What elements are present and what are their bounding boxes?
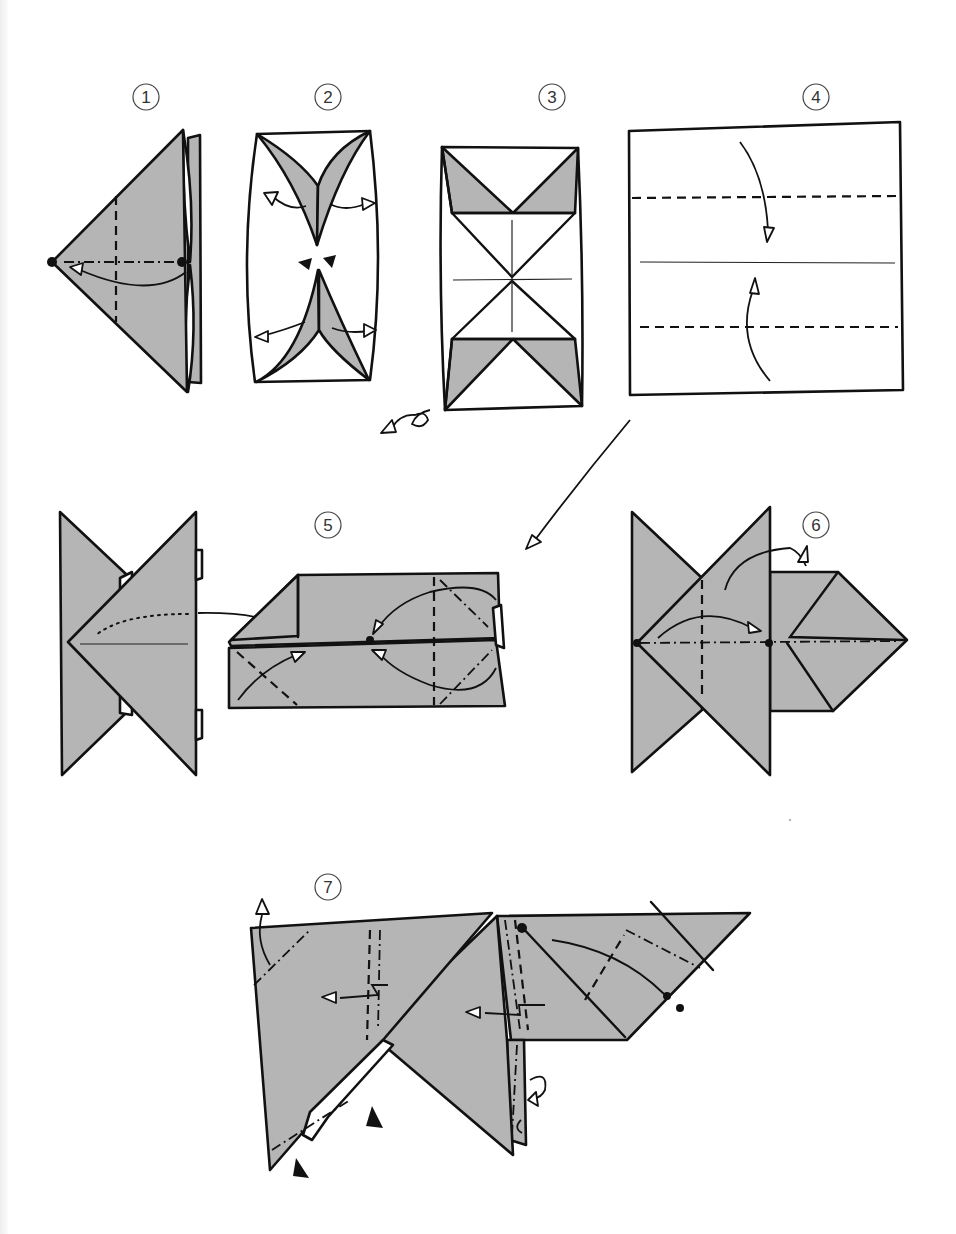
step-number-label: 7 — [323, 878, 332, 897]
step-number-label: 4 — [811, 88, 820, 107]
stray-mark — [789, 819, 791, 821]
step-number-label: 6 — [811, 516, 820, 535]
step-number-5: 5 — [315, 512, 341, 538]
step-4: 4 — [629, 84, 903, 395]
step-number-7: 7 — [315, 874, 341, 900]
step-5: 5 — [60, 512, 505, 775]
step-number-4: 4 — [803, 84, 829, 110]
step-number-2: 2 — [315, 84, 341, 110]
step-number-label: 2 — [323, 88, 332, 107]
step-3: 3 — [441, 84, 583, 410]
step-7: 7 — [251, 874, 750, 1178]
step-number-6: 6 — [803, 512, 829, 538]
fold-arrow-icon — [256, 899, 269, 914]
origami-diagram: 1 2 — [0, 0, 956, 1234]
push-arrow-icon — [293, 1158, 309, 1178]
step-number-3: 3 — [539, 84, 565, 110]
step-number-label: 1 — [141, 88, 150, 107]
step-1: 1 — [47, 84, 201, 392]
step-2: 2 — [247, 84, 378, 382]
step-number-1: 1 — [133, 84, 159, 110]
fold-arrow-icon — [528, 1092, 538, 1106]
sequence-arrow-icon — [526, 420, 630, 549]
step-number-label: 5 — [323, 516, 332, 535]
push-arrow-icon — [366, 1106, 383, 1128]
step-number-label: 3 — [547, 88, 556, 107]
turn-over-arrow-icon — [381, 410, 430, 433]
step-6: 6 — [632, 507, 907, 775]
